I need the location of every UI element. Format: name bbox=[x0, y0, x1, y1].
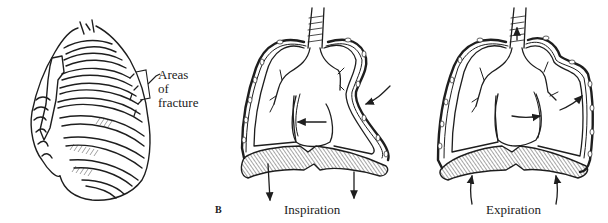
expiration-panel: Expiration bbox=[400, 0, 608, 223]
callout-line-2: fracture bbox=[158, 96, 200, 110]
inspiration-panel: Inspiration bbox=[200, 0, 400, 223]
rib-cage-illustration bbox=[0, 0, 200, 223]
callout-line-1: Areas of bbox=[158, 68, 200, 96]
inspiration-lung-illustration bbox=[200, 0, 400, 223]
inspiration-caption: Inspiration bbox=[284, 203, 340, 216]
expiration-caption: Expiration bbox=[486, 203, 541, 216]
fracture-callout-label: Areas of fracture bbox=[158, 68, 200, 110]
rib-cage-panel: Areas of fracture bbox=[0, 0, 200, 223]
expiration-lung-illustration bbox=[400, 0, 608, 223]
